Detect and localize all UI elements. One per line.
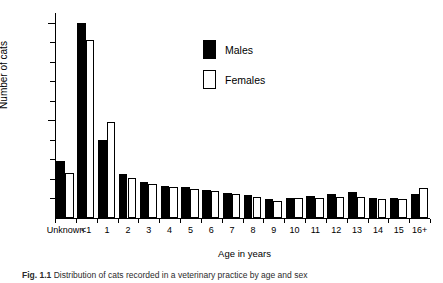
- bar-group: [55, 13, 76, 218]
- x-axis-tick: [388, 219, 389, 223]
- x-axis-tick: [326, 219, 327, 223]
- bar-males: [327, 194, 336, 218]
- legend-swatch-males-icon: [203, 40, 216, 59]
- x-axis-tick-label: 4: [167, 225, 172, 236]
- figure-caption-label: Fig. 1.1: [22, 270, 51, 280]
- figure-caption-text: Distribution of cats recorded in a veter…: [54, 270, 308, 280]
- bar-group: [326, 13, 347, 218]
- bar-males: [140, 182, 149, 218]
- bar-females: [273, 201, 282, 218]
- x-axis-tick: [138, 219, 139, 223]
- bar-males: [348, 192, 357, 218]
- x-axis-tick: [409, 219, 410, 223]
- x-axis-tick-label: 11: [311, 225, 320, 236]
- legend-item-females: Females: [203, 70, 323, 100]
- x-axis-tick-label: 3: [146, 225, 151, 236]
- bar-males: [411, 194, 420, 218]
- bar-females: [336, 197, 345, 218]
- x-axis-tick: [222, 219, 223, 223]
- bar-females: [190, 189, 199, 218]
- legend-label-females: Females: [225, 74, 265, 86]
- x-axis-tick: [243, 219, 244, 223]
- bar-group: [388, 13, 409, 218]
- bar-males: [306, 196, 315, 218]
- x-axis-tick: [305, 219, 306, 223]
- x-axis-tick-label: 14: [373, 225, 383, 236]
- x-axis-tick: [76, 219, 77, 223]
- bar-males: [161, 186, 170, 218]
- bar-females: [253, 197, 262, 218]
- bar-females: [128, 178, 137, 218]
- x-axis-tick: [97, 219, 98, 223]
- bar-females: [232, 194, 241, 218]
- bar-males: [119, 174, 128, 218]
- x-axis-tick-label: 10: [290, 225, 300, 236]
- x-axis-tick-label: 6: [209, 225, 214, 236]
- bar-group: [347, 13, 368, 218]
- bar-females: [398, 199, 407, 218]
- x-axis-tick: [118, 219, 119, 223]
- bar-females: [419, 188, 428, 218]
- bar-males: [265, 199, 274, 218]
- bar-group: [118, 13, 139, 218]
- bar-males: [369, 198, 378, 219]
- bar-males: [98, 140, 107, 218]
- x-axis-title-wrapper: Age in years: [0, 248, 443, 259]
- bar-group: [159, 13, 180, 218]
- y-axis-major-tick: [48, 120, 55, 121]
- x-axis-tick-label: 2: [125, 225, 130, 236]
- bar-females: [148, 184, 157, 218]
- bar-females: [294, 198, 303, 218]
- bar-group: [180, 13, 201, 218]
- bar-females: [211, 191, 220, 218]
- x-axis-tick: [430, 219, 431, 223]
- bar-group: [76, 13, 97, 218]
- legend-swatch-females-icon: [203, 70, 216, 89]
- x-axis-tick-label: 16+: [412, 225, 427, 236]
- legend-item-males: Males: [203, 40, 323, 70]
- bar-males: [56, 161, 65, 218]
- x-axis-tick: [284, 219, 285, 223]
- bar-group: [138, 13, 159, 218]
- figure-container: Number of cats 5001000 Unknown<112345678…: [0, 0, 443, 283]
- bar-males: [244, 195, 253, 218]
- bar-females: [169, 187, 178, 218]
- x-axis-tick-label: Unknown: [47, 225, 85, 236]
- x-axis-tick: [347, 219, 348, 223]
- x-axis-tick-label: <1: [81, 225, 91, 236]
- bar-males: [181, 187, 190, 218]
- bar-females: [357, 197, 366, 218]
- y-axis-major-tick: [48, 23, 55, 24]
- bar-males: [286, 198, 295, 219]
- x-axis-tick-label: 8: [250, 225, 255, 236]
- x-axis-tick-label: 5: [188, 225, 193, 236]
- x-axis-tick: [368, 219, 369, 223]
- bar-females: [107, 122, 116, 218]
- x-axis-tick-label: 9: [271, 225, 276, 236]
- bar-females: [378, 199, 387, 218]
- bar-males: [390, 198, 399, 218]
- x-axis-tick-label: 15: [394, 225, 404, 236]
- x-axis-tick: [201, 219, 202, 223]
- x-axis-tick-labels: Unknown<112345678910111213141516+: [0, 225, 443, 237]
- x-axis-tick: [55, 219, 56, 223]
- x-axis-tick: [159, 219, 160, 223]
- bar-females: [65, 173, 74, 218]
- bar-group: [368, 13, 389, 218]
- legend-label-males: Males: [225, 44, 253, 56]
- bar-males: [77, 23, 86, 218]
- bar-group: [409, 13, 430, 218]
- bar-females: [86, 40, 95, 218]
- bar-group: [97, 13, 118, 218]
- x-axis-tick-label: 13: [352, 225, 362, 236]
- x-axis-tick-label: 12: [331, 225, 341, 236]
- x-axis-ticks: [55, 219, 430, 224]
- x-axis-tick-label: 1: [105, 225, 110, 236]
- x-axis-tick: [180, 219, 181, 223]
- x-axis-title: Age in years: [218, 248, 271, 259]
- chart-legend: Males Females: [203, 40, 323, 100]
- figure-caption: Fig. 1.1 Distribution of cats recorded i…: [22, 270, 442, 280]
- x-axis-tick: [263, 219, 264, 223]
- x-axis-tick-label: 7: [230, 225, 235, 236]
- bar-males: [223, 193, 232, 218]
